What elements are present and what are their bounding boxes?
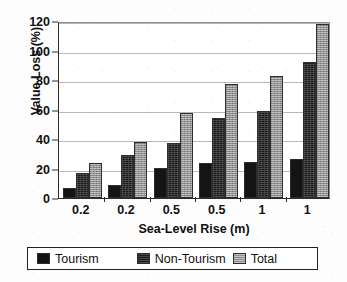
- bar-chart-figure: Value Loss (%) 020406080100120 0.20.20.5…: [0, 0, 347, 282]
- x-axis-tick-labels: 0.20.20.50.511: [58, 203, 330, 223]
- x-axis-tick-mark: [150, 197, 151, 202]
- bar-total: [89, 163, 102, 198]
- bar-group: [59, 23, 104, 198]
- x-axis-tick-label: 0.5: [149, 203, 193, 217]
- legend-label: Total: [251, 252, 277, 266]
- x-axis-tick-mark: [104, 197, 105, 202]
- x-axis-tick-label: 0.5: [195, 203, 239, 217]
- legend-item-tourism[interactable]: Tourism: [37, 252, 99, 266]
- bar-tourism: [199, 163, 212, 198]
- x-axis-tick-label: 0.2: [104, 203, 148, 217]
- x-axis-tick-label: 1: [285, 203, 329, 217]
- plot-area: [58, 22, 330, 199]
- y-axis-tick-label: 60: [4, 104, 50, 118]
- bar-total: [134, 142, 147, 198]
- legend-label: Tourism: [55, 252, 99, 266]
- x-axis-title: Sea-Level Rise (m): [58, 222, 330, 236]
- bar-total: [180, 113, 193, 198]
- x-axis-tick-label: 1: [240, 203, 284, 217]
- bar-non-tourism: [121, 155, 134, 198]
- legend-swatch-icon: [233, 253, 246, 264]
- bar-tourism: [154, 168, 167, 198]
- bar-tourism: [63, 188, 76, 198]
- bar-non-tourism: [167, 143, 180, 198]
- bar-non-tourism: [257, 111, 270, 198]
- legend-label: Non-Tourism: [155, 252, 226, 266]
- y-axis-tick-label: 80: [4, 74, 50, 88]
- bar-total: [225, 84, 238, 198]
- bar-non-tourism: [303, 62, 316, 198]
- bar-total: [270, 76, 283, 198]
- legend-item-non-tourism[interactable]: Non-Tourism: [137, 252, 226, 266]
- legend-swatch-icon: [137, 253, 150, 264]
- bar-group: [195, 23, 240, 198]
- legend-item-total[interactable]: Total: [233, 252, 277, 266]
- chart-legend: TourismNon-TourismTotal: [27, 247, 318, 270]
- x-axis-tick-label: 0.2: [59, 203, 103, 217]
- bar-tourism: [108, 185, 121, 198]
- y-axis-tick-label: 100: [4, 45, 50, 59]
- bar-group: [240, 23, 285, 198]
- bar-group: [104, 23, 149, 198]
- bar-tourism: [244, 162, 257, 198]
- y-axis-tick-label: 0: [4, 192, 50, 206]
- y-axis-tick-labels: 020406080100120: [0, 0, 58, 282]
- bar-group: [286, 23, 331, 198]
- y-axis-tick-label: 40: [4, 133, 50, 147]
- bar-tourism: [290, 159, 303, 198]
- bar-series-container: [59, 23, 329, 198]
- legend-swatch-icon: [37, 253, 50, 264]
- y-axis-tick-label: 20: [4, 163, 50, 177]
- y-axis-tick-label: 120: [4, 15, 50, 29]
- x-axis-tick-mark: [286, 197, 287, 202]
- bar-total: [316, 24, 329, 198]
- x-axis-tick-mark: [240, 197, 241, 202]
- bar-non-tourism: [212, 118, 225, 198]
- bar-non-tourism: [76, 173, 89, 198]
- x-axis-tick-mark: [195, 197, 196, 202]
- bar-group: [150, 23, 195, 198]
